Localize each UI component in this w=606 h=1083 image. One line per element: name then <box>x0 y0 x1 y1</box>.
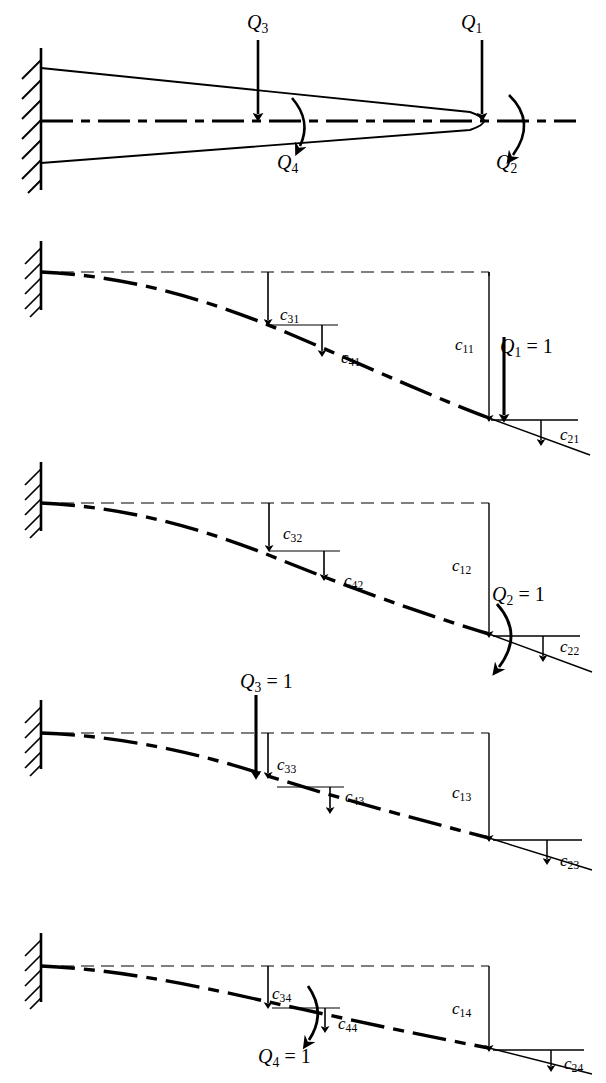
label-subscript: 1 <box>475 21 482 36</box>
label-c22: c22 <box>560 638 580 658</box>
label-c42: c42 <box>344 572 364 592</box>
label-c11: c11 <box>455 336 474 356</box>
label-subscript: 4 <box>272 1055 279 1070</box>
label-subscript: 3 <box>261 21 268 36</box>
label-c21: c21 <box>560 426 580 446</box>
label-c13: c13 <box>452 784 472 804</box>
label-base: Q <box>240 670 254 692</box>
label-subscript: 22 <box>568 645 580 658</box>
panel-4-graphics <box>25 695 592 870</box>
label-Q1eq1: Q1 = 1 <box>500 336 553 360</box>
label-Q3: Q3 <box>247 12 269 36</box>
label-c12: c12 <box>452 557 472 577</box>
label-Q2eq1: Q2 = 1 <box>492 584 545 608</box>
label-base: c <box>280 305 288 324</box>
label-base: c <box>452 999 460 1018</box>
label-subscript: 2 <box>510 161 517 176</box>
panel-3-deflection-curve <box>41 503 489 634</box>
label-Q1: Q1 <box>461 12 483 36</box>
panel-5-wall-support <box>25 933 41 1009</box>
label-subscript: 12 <box>460 564 472 577</box>
panel-1-tapered-beam <box>41 68 484 163</box>
label-subscript: 1 <box>514 345 521 360</box>
label-subscript: 24 <box>572 1062 584 1075</box>
label-base: c <box>272 984 280 1003</box>
label-Q4: Q4 <box>277 152 299 176</box>
label-base: c <box>341 348 349 367</box>
label-base: c <box>455 335 463 354</box>
panel-3-wall-support <box>25 462 41 538</box>
label-c24: c24 <box>564 1055 584 1075</box>
panel-4-deflection-curve <box>41 733 489 838</box>
label-base: c <box>452 783 460 802</box>
panel-1-wall-support <box>22 48 41 193</box>
label-c31: c31 <box>280 306 300 326</box>
label-base: c <box>452 556 460 575</box>
label-base: Q <box>277 151 291 173</box>
label-base: Q <box>258 1045 272 1067</box>
label-subscript: 32 <box>291 532 303 545</box>
label-equals-value: = 1 <box>280 1045 311 1067</box>
panel-1-graphics <box>22 40 576 193</box>
label-subscript: 21 <box>568 433 580 446</box>
panel-4-wall-support <box>25 700 41 776</box>
label-c43: c43 <box>345 788 365 808</box>
label-subscript: 41 <box>349 356 361 369</box>
panel-3-graphics <box>25 462 592 672</box>
label-subscript: 42 <box>352 579 364 592</box>
label-subscript: 2 <box>506 593 513 608</box>
label-base: c <box>277 755 285 774</box>
label-subscript: 43 <box>353 795 365 808</box>
label-base: c <box>338 1014 346 1033</box>
label-c44: c44 <box>338 1015 358 1035</box>
label-subscript: 44 <box>346 1022 358 1035</box>
label-subscript: 11 <box>463 343 475 356</box>
panel-2-deflection-curve <box>41 272 489 418</box>
label-c33: c33 <box>277 756 297 776</box>
label-c14: c14 <box>452 1000 472 1020</box>
label-base: c <box>560 637 568 656</box>
label-base: c <box>283 524 291 543</box>
label-Q2: Q2 <box>496 152 518 176</box>
label-base: Q <box>496 151 510 173</box>
label-c34: c34 <box>272 985 292 1005</box>
label-subscript: 13 <box>460 791 472 804</box>
label-equals-value: = 1 <box>514 583 545 605</box>
label-c41: c41 <box>341 349 361 369</box>
label-subscript: 23 <box>568 859 580 872</box>
label-c23: c23 <box>560 852 580 872</box>
label-subscript: 31 <box>288 313 300 326</box>
label-base: Q <box>492 583 506 605</box>
label-Q4eq1: Q4 = 1 <box>258 1046 311 1070</box>
panel-5-deflection-curve <box>41 966 489 1048</box>
label-c32: c32 <box>283 525 303 545</box>
label-subscript: 33 <box>285 763 297 776</box>
panel-1-q2-moment-arc <box>509 95 524 155</box>
label-base: c <box>560 851 568 870</box>
label-subscript: 14 <box>460 1007 472 1020</box>
label-base: c <box>564 1054 572 1073</box>
label-base: Q <box>500 335 514 357</box>
label-equals-value: = 1 <box>262 670 293 692</box>
panel-2-wall-support <box>25 241 41 317</box>
label-subscript: 34 <box>280 992 292 1005</box>
label-base: c <box>345 787 353 806</box>
label-subscript: 4 <box>291 161 298 176</box>
label-base: Q <box>247 11 261 33</box>
label-subscript: 3 <box>254 680 261 695</box>
label-equals-value: = 1 <box>522 335 553 357</box>
label-base: c <box>344 571 352 590</box>
label-base: c <box>560 425 568 444</box>
label-Q3eq1: Q3 = 1 <box>240 671 293 695</box>
figure-root: Q3Q1Q4Q2c31c41c11Q1 = 1c21c32c42c12Q2 = … <box>0 0 606 1083</box>
label-base: Q <box>461 11 475 33</box>
